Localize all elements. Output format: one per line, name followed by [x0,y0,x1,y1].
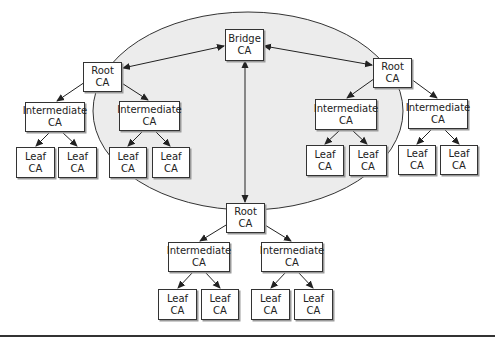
node-label: Intermediate [23,105,88,117]
node-label: CA [339,115,353,127]
node-label: Leaf [67,151,88,163]
node-label: Root [381,61,404,73]
node-label: CA [285,257,299,269]
node-label: CA [121,163,135,175]
intermediate-ca-right-1: Intermediate CA [315,99,377,130]
node-label: CA [452,160,466,172]
node-label: CA [192,257,206,269]
node-label: CA [143,116,157,128]
intermediate-ca-bottom-2: Intermediate CA [261,242,323,272]
leaf-ca: Leaf CA [349,145,387,176]
bridge-ca-node: Bridge CA [225,29,264,61]
node-label: CA [71,163,85,175]
leaf-ca: Leaf CA [109,147,147,178]
node-label: Leaf [167,293,188,305]
node-label: Leaf [117,151,138,163]
leaf-ca: Leaf CA [294,289,333,320]
root-ca-left: Root CA [83,62,122,92]
node-label: Leaf [209,293,230,305]
node-label: CA [307,305,321,317]
node-label: CA [48,117,62,129]
node-label: CA [96,77,110,89]
node-label: Intermediate [406,102,471,114]
node-label: Root [234,206,257,218]
intermediate-ca-left-1: Intermediate CA [25,102,85,132]
root-ca-bottom: Root CA [226,203,265,233]
leaf-ca: Leaf CA [152,147,190,178]
leaf-ca: Leaf CA [398,145,436,175]
leaf-ca: Leaf CA [251,289,290,320]
node-label: CA [213,305,227,317]
leaf-ca: Leaf CA [158,289,197,320]
node-label: Leaf [448,148,469,160]
node-label: Leaf [357,149,378,161]
root-ca-right: Root CA [373,58,412,88]
node-label: CA [171,305,185,317]
leaf-ca: Leaf CA [16,147,55,178]
bottom-divider [0,335,495,337]
node-label: Leaf [303,293,324,305]
node-label: Leaf [260,293,281,305]
intermediate-ca-bottom-1: Intermediate CA [168,242,230,272]
node-label: Intermediate [260,245,325,257]
node-label: CA [264,305,278,317]
node-label: CA [29,163,43,175]
node-label: CA [164,163,178,175]
node-label: Leaf [406,148,427,160]
leaf-ca: Leaf CA [306,145,344,176]
node-label: CA [239,218,253,230]
leaf-ca: Leaf CA [58,147,97,178]
node-label: CA [431,114,445,126]
node-label: Intermediate [314,103,379,115]
bridge-ca-diagram: Bridge CA Root CA Intermediate CA Interm… [0,0,495,338]
intermediate-ca-left-2: Intermediate CA [119,101,180,131]
node-label: Leaf [25,151,46,163]
node-label: Leaf [160,151,181,163]
node-label: Intermediate [117,104,182,116]
intermediate-ca-right-2: Intermediate CA [408,99,468,129]
node-label: CA [238,45,252,57]
node-label: Root [91,65,114,77]
node-label: CA [410,160,424,172]
node-label: Bridge [228,33,261,45]
leaf-ca: Leaf CA [440,145,478,175]
node-label: CA [361,161,375,173]
leaf-ca: Leaf CA [201,289,239,320]
node-label: Intermediate [167,245,232,257]
node-label: Leaf [314,149,335,161]
node-label: CA [386,73,400,85]
node-label: CA [318,161,332,173]
